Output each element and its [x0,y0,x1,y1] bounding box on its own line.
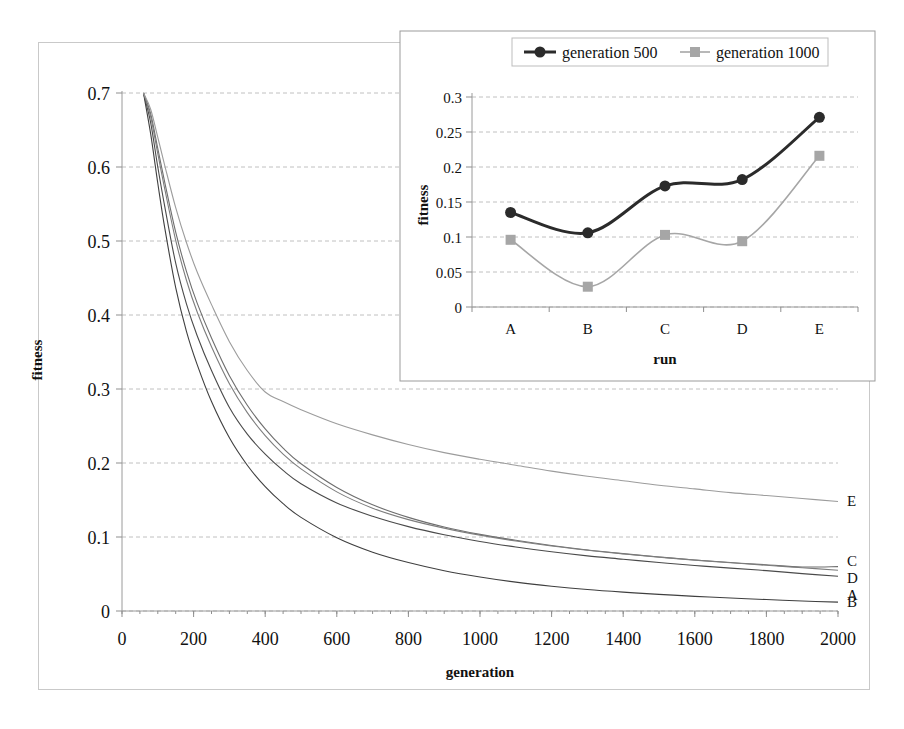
inset-y-tick-label: 0.1 [443,230,462,246]
main-y-tick-label: 0 [101,602,110,622]
main-x-tick-label: 1200 [534,629,570,649]
main-x-axis-title: generation [446,664,515,680]
main-y-tick-label: 0.1 [88,528,111,548]
figure-root: 00.10.20.30.40.50.60.7020040060080010001… [0,0,904,729]
main-y-tick-label: 0.6 [88,158,111,178]
inset-x-axis-title: run [653,351,677,367]
chart-canvas: 00.10.20.30.40.50.60.7020040060080010001… [0,0,904,729]
inset-marker-generation-500 [814,112,825,123]
inset-marker-generation-1000 [737,236,747,246]
main-series-end-label-b: B [847,594,857,610]
main-x-tick-label: 200 [180,629,207,649]
main-series-end-label-e: E [847,493,856,509]
inset-marker-generation-500 [582,227,593,238]
inset-marker-generation-500 [505,207,516,218]
main-x-tick-label: 600 [323,629,350,649]
inset-y-tick-label: 0 [455,300,463,316]
inset-y-tick-label: 0.25 [436,125,462,141]
legend-marker-generation-1000 [690,47,700,57]
main-x-tick-label: 1400 [605,629,641,649]
main-y-tick-label: 0.2 [88,454,111,474]
main-y-axis-title: fitness [29,339,45,380]
main-series-end-label-c: C [847,553,857,569]
inset-category-label-e: E [815,321,824,337]
main-x-tick-label: 1800 [748,629,784,649]
inset-chart: 00.050.10.150.20.250.3ABCDEfitnessrungen… [400,31,875,381]
inset-frame [400,31,875,381]
inset-y-tick-label: 0.3 [443,90,462,106]
inset-marker-generation-1000 [814,151,824,161]
inset-y-tick-label: 0.15 [436,195,462,211]
main-y-tick-label: 0.4 [88,306,111,326]
inset-marker-generation-1000 [583,282,593,292]
inset-y-axis-title: fitness [415,184,431,225]
main-x-tick-label: 1000 [462,629,498,649]
main-x-tick-label: 0 [118,629,127,649]
inset-marker-generation-1000 [660,230,670,240]
main-x-tick-label: 1600 [677,629,713,649]
legend-label-generation-500: generation 500 [562,44,658,62]
legend-marker-generation-500 [535,47,546,58]
inset-marker-generation-1000 [506,235,516,245]
main-series-end-label-d: D [847,570,858,586]
inset-category-label-d: D [737,321,748,337]
main-x-tick-label: 800 [395,629,422,649]
inset-y-tick-label: 0.2 [443,160,462,176]
main-x-tick-label: 2000 [820,629,856,649]
main-x-tick-label: 400 [252,629,279,649]
inset-y-tick-label: 0.05 [436,265,462,281]
main-y-tick-label: 0.5 [88,232,111,252]
inset-category-label-b: B [583,321,593,337]
inset-marker-generation-500 [737,174,748,185]
legend-label-generation-1000: generation 1000 [716,44,820,62]
inset-category-label-c: C [660,321,670,337]
inset-marker-generation-500 [660,180,671,191]
main-y-tick-label: 0.3 [88,380,111,400]
inset-category-label-a: A [505,321,516,337]
main-y-tick-label: 0.7 [88,84,111,104]
